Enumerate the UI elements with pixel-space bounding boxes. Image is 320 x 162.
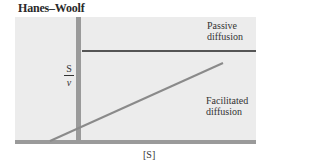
passive-diffusion-label: Passive diffusion bbox=[207, 20, 243, 42]
y-axis bbox=[76, 17, 81, 144]
facilitated-diffusion-label-line1: Facilitated bbox=[206, 95, 248, 106]
passive-diffusion-label-line1: Passive bbox=[207, 20, 243, 31]
passive-diffusion-label-line2: diffusion bbox=[207, 31, 243, 42]
facilitated-diffusion-label: Facilitated diffusion bbox=[206, 95, 248, 117]
y-axis-label-denominator: v bbox=[64, 76, 74, 88]
y-axis-label: S v bbox=[64, 64, 74, 88]
y-axis-label-numerator: S bbox=[64, 64, 74, 76]
facilitated-diffusion-label-line2: diffusion bbox=[206, 106, 248, 117]
x-axis-label: [S] bbox=[143, 149, 155, 160]
